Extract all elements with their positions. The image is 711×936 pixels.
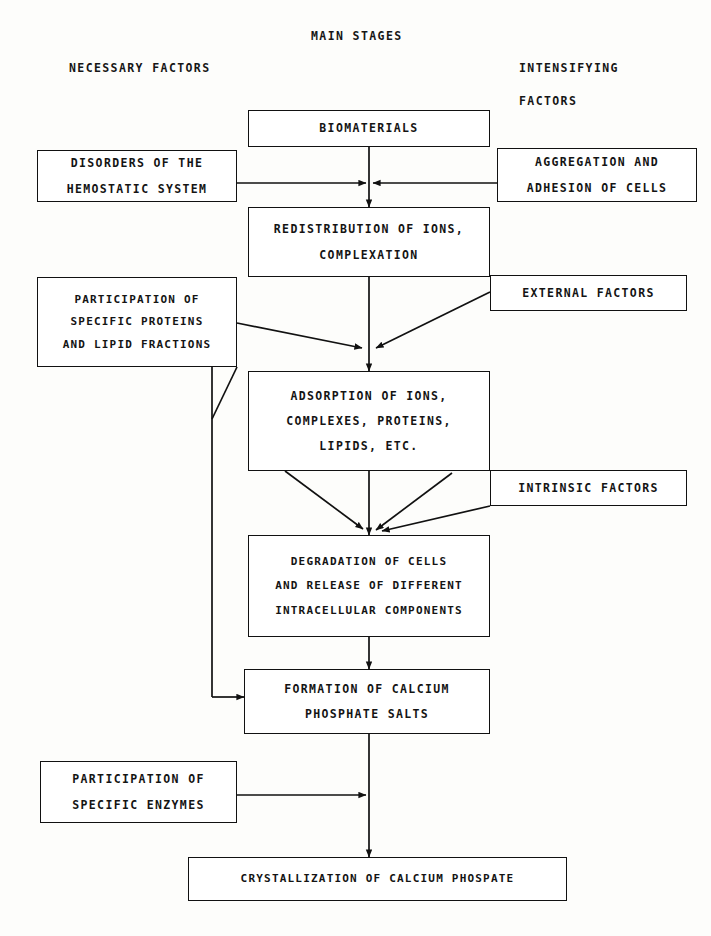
node-intrinsic-line-1: INTRINSIC FACTORS (518, 482, 659, 494)
node-redistribution-of-ions[interactable]: REDISTRIBUTION OF IONS, COMPLEXATION (248, 207, 490, 277)
node-enzymes-line-1: PARTICIPATION OF (72, 773, 204, 785)
node-crystallization-of-calcium-phosphate[interactable]: CRYSTALLIZATION OF CALCIUM PHOSPATE (188, 857, 567, 901)
node-degradation-line-1: DEGRADATION OF CELLS (291, 556, 447, 568)
node-proteins-line-1: PARTICIPATION OF (74, 294, 199, 306)
node-crystallization-line-1: CRYSTALLIZATION OF CALCIUM PHOSPATE (241, 873, 515, 885)
node-participation-of-specific-proteins[interactable]: PARTICIPATION OF SPECIFIC PROTEINS AND L… (37, 277, 237, 367)
node-redistribution-line-2: COMPLEXATION (319, 249, 418, 261)
edge-adsorption-left-to-degradation (285, 471, 363, 529)
edge-proteins-elbow-diagonal (212, 367, 237, 419)
edge-proteins-to-adsorption (237, 323, 362, 348)
node-proteins-line-2: SPECIFIC PROTEINS (71, 316, 204, 328)
flowchart-diagram: MAIN STAGES NECESSARY FACTORS INTENSIFYI… (0, 0, 711, 936)
node-adsorption-line-1: ADSORPTION OF IONS, (290, 390, 447, 402)
node-disorders-of-hemostatic-system[interactable]: DISORDERS OF THE HEMOSTATIC SYSTEM (37, 150, 237, 202)
node-aggregation-line-2: ADHESION OF CELLS (527, 182, 668, 194)
node-biomaterials[interactable]: BIOMATERIALS (248, 110, 490, 147)
column-header-necessary-factors: NECESSARY FACTORS (69, 61, 211, 75)
node-formation-line-1: FORMATION OF CALCIUM (284, 683, 449, 695)
diagram-title: MAIN STAGES (311, 29, 403, 43)
column-header-intensifying-line2: FACTORS (519, 94, 577, 108)
node-external-line-1: EXTERNAL FACTORS (522, 287, 654, 299)
node-external-factors[interactable]: EXTERNAL FACTORS (490, 275, 687, 311)
edge-external-to-degradation (376, 473, 452, 530)
node-biomaterials-line-1: BIOMATERIALS (319, 122, 418, 134)
node-formation-line-2: PHOSPHATE SALTS (305, 708, 429, 720)
node-degradation-line-3: INTRACELLULAR COMPONENTS (275, 605, 463, 617)
node-degradation-line-2: AND RELEASE OF DIFFERENT (275, 580, 463, 592)
column-header-intensifying-line1: INTENSIFYING (519, 61, 619, 75)
node-degradation-of-cells[interactable]: DEGRADATION OF CELLS AND RELEASE OF DIFF… (248, 535, 490, 637)
node-aggregation-line-1: AGGREGATION AND (535, 156, 659, 168)
node-formation-of-calcium-phosphate-salts[interactable]: FORMATION OF CALCIUM PHOSPHATE SALTS (244, 669, 490, 734)
node-aggregation-and-adhesion-of-cells[interactable]: AGGREGATION AND ADHESION OF CELLS (497, 148, 697, 202)
node-adsorption-line-3: LIPIDS, ETC. (319, 440, 418, 452)
edge-external-to-adsorption (376, 292, 490, 348)
node-adsorption-of-ions[interactable]: ADSORPTION OF IONS, COMPLEXES, PROTEINS,… (248, 371, 490, 471)
node-adsorption-line-2: COMPLEXES, PROTEINS, (286, 415, 451, 427)
node-intrinsic-factors[interactable]: INTRINSIC FACTORS (490, 470, 687, 506)
node-enzymes-line-2: SPECIFIC ENZYMES (72, 799, 204, 811)
node-redistribution-line-1: REDISTRIBUTION OF IONS, (274, 223, 464, 235)
edge-intrinsic-to-degradation (382, 506, 490, 531)
node-proteins-line-3: AND LIPID FRACTIONS (63, 339, 212, 351)
node-disorders-line-1: DISORDERS OF THE (71, 157, 203, 169)
node-disorders-line-2: HEMOSTATIC SYSTEM (67, 183, 208, 195)
node-participation-of-specific-enzymes[interactable]: PARTICIPATION OF SPECIFIC ENZYMES (40, 761, 237, 823)
